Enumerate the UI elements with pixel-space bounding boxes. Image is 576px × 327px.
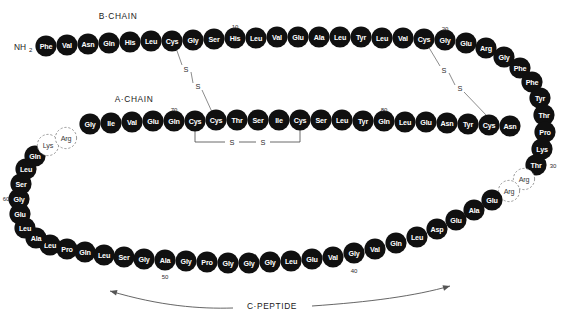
residue-label: Ser	[209, 35, 220, 44]
residue-bead: Ser	[310, 109, 331, 130]
residue-bead: Leu	[331, 109, 352, 130]
residue-bead: Leu	[93, 244, 114, 265]
residue-label: Glu	[450, 216, 461, 225]
residue-bead: Gln	[385, 232, 406, 253]
residue-label: Gly	[349, 249, 360, 258]
residue-label: Ser	[16, 180, 27, 189]
residue-bead: Gly	[175, 250, 196, 271]
residue-label: Gln	[103, 39, 114, 48]
residue-bead: Leu	[140, 30, 161, 51]
residue-label: Lys	[536, 145, 548, 154]
residue-label: Ser	[316, 116, 327, 125]
residue-label: Cys	[294, 116, 307, 125]
residue-label: Arg	[519, 175, 530, 184]
residue-label: Ala	[469, 206, 481, 215]
residue-label: Gly	[188, 36, 199, 45]
residue-bead: Ser	[203, 28, 224, 49]
residue-label: Leu	[285, 257, 297, 266]
residue-label: Pro	[201, 258, 213, 267]
residue-label: Leu	[336, 116, 348, 125]
b-chain-label: B·CHAIN	[99, 11, 138, 21]
residue-bead: Gly	[343, 242, 364, 263]
disulfide-line	[428, 46, 487, 116]
residue-label: Thr	[531, 161, 542, 170]
position-number: 50	[162, 274, 169, 280]
residue-bead: His	[224, 27, 245, 48]
residue-bead: Gly	[434, 29, 455, 50]
residue-beads-layer: PheValAsnGlnHisLeuCysGlySerHisLeuValGluA…	[8, 26, 555, 273]
position-number: 80	[381, 107, 388, 113]
residue-label: Gln	[390, 239, 401, 248]
position-number: 10	[232, 24, 239, 30]
residue-label: Gly	[14, 195, 25, 204]
residue-label: Leu	[411, 233, 423, 242]
residue-bead: Gly	[182, 29, 203, 50]
residue-bead: Glu	[415, 111, 436, 132]
residue-label: Leu	[250, 34, 262, 43]
residue-label: Glu	[292, 33, 303, 42]
residue-label: Val	[398, 34, 408, 43]
disulfide-bonds-layer: SSSSSS	[176, 46, 487, 147]
residue-bead: Gln	[98, 32, 119, 53]
residue-label: Gly	[85, 120, 96, 129]
residue-label: Gly	[244, 259, 255, 268]
residue-label: Tyr	[463, 120, 473, 129]
residue-label: Ala	[314, 33, 326, 42]
residue-label: Ser	[253, 116, 264, 125]
residue-bead: Tyr	[350, 26, 371, 47]
residue-label: His	[125, 38, 136, 47]
residue-label: Cys	[210, 116, 223, 125]
residue-bead: Val	[56, 34, 77, 55]
residue-label: Gly	[499, 53, 510, 62]
residue-label: Leu	[399, 118, 411, 127]
residue-label: Thr	[539, 111, 550, 120]
residue-label: Arg	[61, 134, 72, 143]
residue-bead: Gly	[79, 113, 100, 134]
residue-bead: Asn	[436, 112, 457, 133]
residue-label: Val	[272, 33, 282, 42]
disulfide-bond: SS	[195, 129, 300, 147]
residue-bead: Ile	[268, 109, 289, 130]
residue-label: Asn	[82, 40, 95, 49]
residue-bead: Glu	[287, 26, 308, 47]
residue-bead: Gly	[217, 252, 238, 273]
residue-bead: Ala	[308, 26, 329, 47]
residue-bead: Asn	[77, 33, 98, 54]
proinsulin-diagram: SSSSSS PheValAsnGlnHisLeuCysGlySerHisLeu…	[0, 0, 576, 327]
residue-bead: Tyr	[352, 110, 373, 131]
disulfide-bond: SS	[176, 48, 212, 112]
residue-label: Gly	[440, 36, 451, 45]
position-number: 60	[3, 196, 10, 202]
residue-bead: Leu	[280, 250, 301, 271]
residue-label: Tyr	[356, 33, 366, 42]
residue-bead: Arg	[55, 127, 76, 148]
residue-label: Gln	[29, 152, 40, 161]
residue-label: Leu	[145, 37, 157, 46]
residue-bead: Leu	[371, 27, 392, 48]
residue-label: Lys	[43, 141, 54, 150]
position-number: 40	[351, 268, 358, 274]
residue-label: Leu	[19, 224, 31, 233]
figure-canvas: SSSSSS PheValAsnGlnHisLeuCysGlySerHisLeu…	[0, 0, 576, 327]
residue-label: Gly	[223, 259, 234, 268]
residue-label: Val	[127, 118, 137, 127]
c-peptide-label: C·PEPTIDE	[247, 301, 297, 311]
residue-label: Glu	[14, 210, 25, 219]
residue-label: Gln	[168, 117, 179, 126]
n-terminus-text: NH	[14, 42, 26, 52]
residue-bead: Glu	[301, 248, 322, 269]
residue-bead: Cys	[413, 28, 434, 49]
residue-label: Gln	[378, 117, 389, 126]
residue-bead: Thr	[226, 109, 247, 130]
residue-bead: Glu	[142, 110, 163, 131]
n-terminus-label: NH 2	[14, 42, 33, 53]
disulfide-bond: SS	[428, 46, 487, 116]
residue-label: Glu	[306, 255, 317, 264]
residue-label: His	[230, 34, 241, 43]
residue-bead: Asp	[426, 218, 447, 239]
sulfur-label: S	[458, 84, 463, 93]
residue-label: Asn	[504, 122, 517, 131]
residue-label: Cys	[166, 37, 179, 46]
residue-label: Leu	[376, 34, 388, 43]
residue-bead: Gln	[163, 110, 184, 131]
